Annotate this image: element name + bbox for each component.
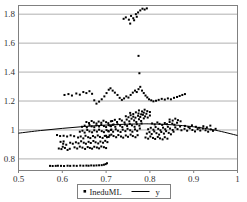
scatter-point <box>172 120 174 122</box>
scatter-point <box>141 110 143 112</box>
scatter-point <box>202 125 204 127</box>
scatter-point <box>65 144 67 146</box>
scatter-point <box>114 119 116 121</box>
scatter-point <box>153 130 155 132</box>
scatter-point <box>63 94 65 96</box>
scatter-point <box>131 124 133 126</box>
scatter-point <box>146 133 148 135</box>
scatter-point <box>159 137 161 139</box>
scatter-point <box>95 141 97 143</box>
scatter-point <box>95 103 97 105</box>
scatter-point <box>145 95 147 97</box>
scatter-point <box>161 98 163 100</box>
scatter-point <box>199 130 201 132</box>
scatter-point <box>168 132 170 134</box>
scatter-point <box>157 136 159 138</box>
scatter-point <box>161 124 163 126</box>
scatter-point <box>114 92 116 94</box>
scatter-point <box>58 148 60 150</box>
scatter-point <box>191 129 193 131</box>
scatter-point <box>60 141 62 143</box>
scatter-point <box>184 125 186 127</box>
scatter-point <box>101 130 103 132</box>
scatter-point <box>187 126 189 128</box>
scatter-point <box>86 126 88 128</box>
scatter-point <box>106 129 108 131</box>
scatter-point <box>63 140 65 142</box>
scatter-point <box>75 93 77 95</box>
scatter-point <box>154 138 156 140</box>
scatter-point <box>132 92 134 94</box>
scatter-point <box>191 124 193 126</box>
scatter-point <box>174 126 176 128</box>
scatter-point <box>116 123 118 125</box>
scatter-point <box>148 131 150 133</box>
scatter-point <box>108 89 110 91</box>
scatter-point <box>130 114 132 116</box>
scatter-point <box>167 97 169 99</box>
scatter-point <box>85 165 87 167</box>
scatter-point <box>98 164 100 166</box>
scatter-point <box>137 11 139 13</box>
scatter-point <box>126 125 128 127</box>
legend-label-ineduml: IneduML <box>90 187 122 197</box>
scatter-point <box>132 135 134 137</box>
scatter-point <box>134 90 136 92</box>
scatter-point <box>138 109 140 111</box>
scatter-point <box>150 99 152 101</box>
scatter-point <box>147 138 149 140</box>
y-tick-label: 1.4 <box>4 67 16 77</box>
scatter-point <box>104 140 106 142</box>
scatter-point <box>149 111 151 113</box>
scatter-point <box>143 117 145 119</box>
scatter-point <box>158 99 160 101</box>
scatter-point <box>124 130 126 132</box>
scatter-point <box>81 130 83 132</box>
y-tick-label: 0.8 <box>4 154 16 164</box>
scatter-point <box>173 124 175 126</box>
scatter-point <box>79 94 81 96</box>
scatter-point <box>140 113 142 115</box>
x-tick-label: 0.8 <box>144 174 156 184</box>
scatter-point <box>138 72 140 74</box>
scatter-point <box>138 55 140 57</box>
scatter-point <box>49 165 51 167</box>
scatter-point <box>184 93 186 95</box>
scatter-point <box>91 93 93 95</box>
scatter-point <box>172 129 174 131</box>
scatter-point <box>197 128 199 130</box>
scatter-point <box>63 165 65 167</box>
scatter-point <box>169 128 171 130</box>
scatter-point <box>136 16 138 18</box>
scatter-point <box>78 142 80 144</box>
scatter-point <box>106 92 108 94</box>
scatter-point <box>123 18 125 20</box>
scatter-point <box>84 148 86 150</box>
scatter-point <box>198 127 200 129</box>
scatter-point <box>87 136 89 138</box>
scatter-point <box>173 131 175 133</box>
scatter-point <box>103 131 105 133</box>
scatter-point <box>125 134 127 136</box>
scatter-point <box>73 135 75 137</box>
x-tick-label: 0.9 <box>188 174 200 184</box>
scatter-point <box>91 125 93 127</box>
scatter-point <box>152 129 154 131</box>
scatter-point <box>119 118 121 120</box>
scatter-point <box>98 126 100 128</box>
scatter-point <box>89 137 91 139</box>
scatter-point <box>174 118 176 120</box>
scatter-point <box>195 126 197 128</box>
scatter-point <box>166 123 168 125</box>
scatter-point <box>181 94 183 96</box>
scatter-point <box>116 121 118 123</box>
scatter-point <box>121 120 123 122</box>
scatter-point <box>133 119 135 121</box>
chart-container: 0.811.21.41.61.8 0.50.60.70.80.91 IneduM… <box>0 0 247 202</box>
scatter-point <box>87 146 89 148</box>
scatter-point <box>117 134 119 136</box>
scatter-point <box>139 86 141 88</box>
scatter-point <box>105 126 107 128</box>
scatter-point <box>134 126 136 128</box>
scatter-point <box>180 120 182 122</box>
